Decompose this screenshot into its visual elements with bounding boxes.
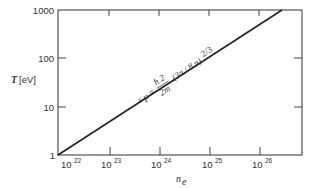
- y-tick-10: 10: [43, 102, 54, 113]
- svg-text:25: 25: [215, 157, 223, 164]
- svg-text:24: 24: [164, 157, 172, 164]
- svg-text:10: 10: [252, 159, 263, 170]
- svg-text:10: 10: [101, 159, 112, 170]
- svg-text:23: 23: [114, 157, 122, 164]
- svg-text:10: 10: [151, 159, 162, 170]
- y-tick-1: 1: [50, 150, 55, 161]
- x-tick-1e23: 10 23: [101, 157, 122, 170]
- x-ticks-top: [109, 10, 259, 16]
- svg-text:n: n: [176, 173, 181, 184]
- y-ticks-right: [294, 58, 302, 107]
- x-tick-1e24: 10 24: [151, 157, 172, 170]
- y-tick-100: 100: [38, 53, 54, 64]
- svg-text:e: e: [182, 176, 187, 187]
- svg-text:26: 26: [265, 157, 273, 164]
- svg-text:[eV]: [eV]: [19, 74, 36, 85]
- y-tick-1000: 1000: [33, 5, 54, 16]
- svg-text:(3π / 8 π): (3π / 8 π): [170, 56, 203, 83]
- chart-canvas: 1000 100 10 1 10 22 10 23 10 24 10 25 10…: [0, 0, 312, 188]
- x-tick-1e26: 10 26: [252, 157, 273, 170]
- x-axis-title: n e: [176, 173, 187, 187]
- plot-frame: [58, 10, 302, 155]
- x-ticks-bottom: [110, 147, 260, 155]
- fermi-energy-line: [58, 10, 282, 155]
- svg-text:10: 10: [202, 159, 213, 170]
- svg-text:2/3: 2/3: [199, 44, 215, 59]
- svg-text:22: 22: [74, 157, 82, 164]
- x-tick-1e22: 10 22: [61, 157, 82, 170]
- y-axis-title: T [eV]: [11, 74, 36, 85]
- svg-text:T: T: [11, 74, 18, 85]
- x-tick-1e25: 10 25: [202, 157, 223, 170]
- y-ticks-left: [58, 58, 66, 107]
- svg-text:10: 10: [61, 159, 72, 170]
- fermi-energy-annotation: ε F = ħ 2 2m (3π / 8 π) 2/3: [132, 42, 219, 109]
